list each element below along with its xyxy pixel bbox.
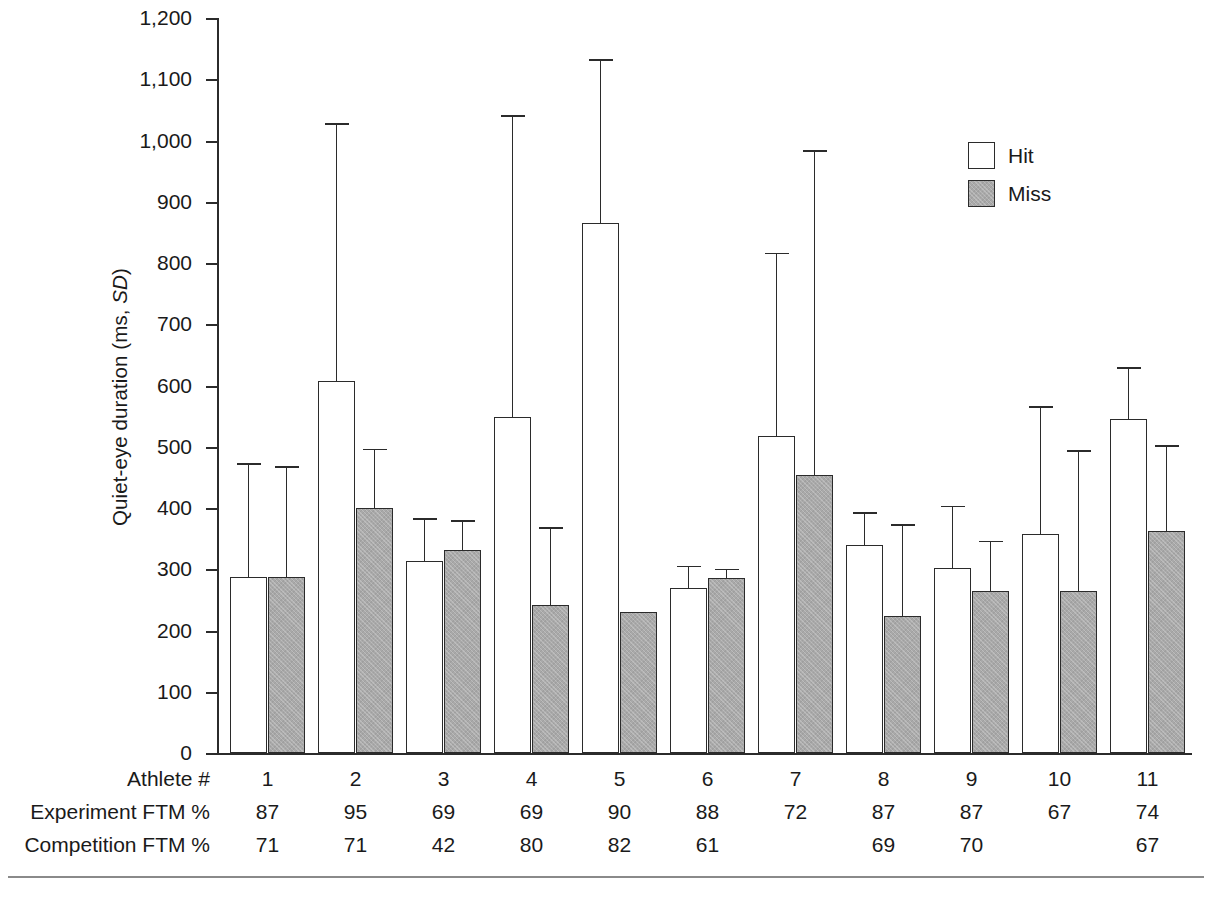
athlete-number-row-cell-2: 2 — [316, 762, 396, 795]
error-bar-cap-miss-athlete-9 — [979, 541, 1003, 543]
experiment-ftm-row: Experiment FTM %8795696990887287876774 — [0, 795, 1216, 828]
chart-legend: HitMiss — [968, 136, 1138, 212]
bar-hit-athlete-11[interactable] — [1110, 419, 1147, 753]
bar-hit-athlete-10[interactable] — [1022, 534, 1059, 753]
athlete-number-row-cell-9: 9 — [932, 762, 1012, 795]
bar-miss-athlete-2[interactable] — [356, 508, 393, 753]
y-axis-tick-700 — [206, 324, 217, 326]
y-axis-tick-500 — [206, 447, 217, 449]
competition-ftm-row-cell-2: 71 — [316, 828, 396, 861]
bar-miss-athlete-3[interactable] — [444, 550, 481, 753]
experiment-ftm-row-header: Experiment FTM % — [0, 795, 210, 828]
bar-miss-athlete-7[interactable] — [796, 475, 833, 753]
bar-group-athlete-4 — [494, 18, 582, 753]
athlete-number-row: Athlete #1234567891011 — [0, 762, 1216, 795]
y-axis-tick-label-1100: 1,100 — [72, 68, 192, 89]
bar-miss-athlete-5[interactable] — [620, 612, 657, 753]
bar-group-athlete-10 — [1022, 18, 1110, 753]
y-axis-tick-label-800: 800 — [72, 252, 192, 273]
experiment-ftm-row-cell-4: 69 — [492, 795, 572, 828]
error-bar-stem-hit-athlete-8 — [864, 514, 866, 546]
error-bar-stem-miss-athlete-6 — [726, 570, 728, 578]
y-axis-tick-label-600: 600 — [72, 375, 192, 396]
athlete-number-row-cell-11: 11 — [1108, 762, 1188, 795]
legend-item-miss[interactable]: Miss — [968, 174, 1138, 212]
error-bar-stem-hit-athlete-4 — [512, 117, 514, 417]
error-bar-stem-miss-athlete-9 — [990, 542, 992, 591]
figure-container: Quiet-eye duration (ms, SD) 1,2001,1001,… — [0, 0, 1216, 900]
experiment-ftm-row-cell-6: 88 — [668, 795, 748, 828]
y-axis-tick-300 — [206, 569, 217, 571]
competition-ftm-row-cell-1: 71 — [228, 828, 308, 861]
y-axis-tick-label-1000: 1,000 — [72, 130, 192, 151]
bar-miss-athlete-9[interactable] — [972, 591, 1009, 753]
legend-item-hit[interactable]: Hit — [968, 136, 1138, 174]
y-axis-tick-800 — [206, 263, 217, 265]
error-bar-cap-miss-athlete-10 — [1067, 450, 1091, 452]
y-axis-tick-label-900: 900 — [72, 191, 192, 212]
athlete-number-row-cell-1: 1 — [228, 762, 308, 795]
error-bar-cap-hit-athlete-4 — [501, 115, 525, 117]
error-bar-cap-hit-athlete-6 — [677, 566, 701, 568]
bar-hit-athlete-8[interactable] — [846, 545, 883, 753]
y-axis-tick-1000 — [206, 141, 217, 143]
athlete-number-row-cell-4: 4 — [492, 762, 572, 795]
bar-group-athlete-9 — [934, 18, 1022, 753]
y-axis-tick-label-0: 0 — [72, 742, 192, 763]
bar-hit-athlete-3[interactable] — [406, 561, 443, 753]
error-bar-cap-hit-athlete-1 — [237, 463, 261, 465]
legend-swatch-hit-icon — [968, 142, 995, 169]
y-axis-tick-600 — [206, 386, 217, 388]
y-axis-tick-label-1200: 1,200 — [72, 7, 192, 28]
error-bar-cap-hit-athlete-7 — [765, 253, 789, 255]
bar-miss-athlete-10[interactable] — [1060, 591, 1097, 753]
plot-area: 1,2001,1001,0009008007006005004003002001… — [217, 18, 1192, 755]
experiment-ftm-row-cell-11: 74 — [1108, 795, 1188, 828]
bar-group-athlete-8 — [846, 18, 934, 753]
error-bar-cap-miss-athlete-3 — [451, 520, 475, 522]
athlete-number-row-cell-7: 7 — [756, 762, 836, 795]
y-axis-tick-label-300: 300 — [72, 558, 192, 579]
y-axis-title-italic-sd: SD — [108, 275, 131, 304]
athlete-number-row-header: Athlete # — [0, 762, 210, 795]
error-bar-stem-hit-athlete-9 — [952, 507, 954, 568]
y-axis-tick-1100 — [206, 79, 217, 81]
bar-group-athlete-1 — [230, 18, 318, 753]
error-bar-stem-hit-athlete-11 — [1128, 369, 1130, 419]
bar-miss-athlete-11[interactable] — [1148, 531, 1185, 753]
experiment-ftm-row-cell-9: 87 — [932, 795, 1012, 828]
error-bar-cap-hit-athlete-5 — [589, 59, 613, 61]
y-axis-tick-label-400: 400 — [72, 497, 192, 518]
y-axis-tick-1200 — [206, 18, 217, 20]
bar-miss-athlete-1[interactable] — [268, 577, 305, 753]
y-axis-tick-label-200: 200 — [72, 620, 192, 641]
bar-miss-athlete-4[interactable] — [532, 605, 569, 753]
bar-hit-athlete-6[interactable] — [670, 588, 707, 753]
experiment-ftm-row-cell-1: 87 — [228, 795, 308, 828]
error-bar-stem-hit-athlete-7 — [776, 254, 778, 436]
error-bar-cap-miss-athlete-2 — [363, 449, 387, 451]
error-bar-stem-hit-athlete-1 — [248, 465, 250, 577]
bar-hit-athlete-4[interactable] — [494, 417, 531, 753]
competition-ftm-row-cell-8: 69 — [844, 828, 924, 861]
athlete-number-row-cell-5: 5 — [580, 762, 660, 795]
athlete-number-row-cell-6: 6 — [668, 762, 748, 795]
error-bar-stem-hit-athlete-5 — [600, 61, 602, 223]
experiment-ftm-row-cell-3: 69 — [404, 795, 484, 828]
athlete-number-row-cell-3: 3 — [404, 762, 484, 795]
bar-miss-athlete-6[interactable] — [708, 578, 745, 753]
experiment-ftm-row-cell-2: 95 — [316, 795, 396, 828]
bar-group-athlete-6 — [670, 18, 758, 753]
bar-hit-athlete-5[interactable] — [582, 223, 619, 753]
error-bar-cap-miss-athlete-7 — [803, 150, 827, 152]
bars-layer — [217, 18, 1192, 755]
bar-hit-athlete-7[interactable] — [758, 436, 795, 753]
error-bar-cap-hit-athlete-8 — [853, 512, 877, 514]
error-bar-cap-hit-athlete-11 — [1117, 367, 1141, 369]
bar-hit-athlete-2[interactable] — [318, 381, 355, 753]
bar-miss-athlete-8[interactable] — [884, 616, 921, 753]
bar-hit-athlete-1[interactable] — [230, 577, 267, 753]
competition-ftm-row-cell-3: 42 — [404, 828, 484, 861]
y-axis-tick-900 — [206, 202, 217, 204]
bar-hit-athlete-9[interactable] — [934, 568, 971, 753]
